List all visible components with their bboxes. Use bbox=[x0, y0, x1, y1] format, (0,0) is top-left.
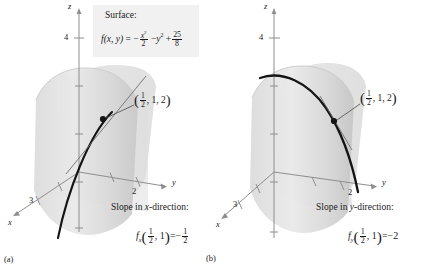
y-tick-label-b: 2 bbox=[348, 188, 352, 197]
value: 2 bbox=[393, 230, 398, 241]
z-axis-label-b: z bbox=[264, 2, 267, 11]
figure-panel-b: z y x 4 2 3 (12, 1, 2) Slope in y-direct… bbox=[212, 0, 423, 272]
figure-number-b: (b) bbox=[206, 254, 216, 263]
y-axis-label-a: y bbox=[172, 178, 176, 187]
point-label-a: (12, 1, 2) bbox=[134, 92, 171, 109]
y-axis-label-b: y bbox=[382, 178, 386, 187]
minus-sign-1: − bbox=[133, 34, 138, 44]
term1-exp: 2 bbox=[144, 30, 146, 35]
term2-exp: 2 bbox=[160, 32, 163, 38]
point-fraction: 12 bbox=[366, 90, 372, 107]
slope-caption-a: Slope in x-direction: bbox=[111, 203, 189, 213]
z-tick-label-b: 4 bbox=[259, 33, 263, 42]
y-tick-label-a: 2 bbox=[132, 187, 136, 196]
x-tick-label-b: 3 bbox=[233, 200, 237, 209]
term3-den: 8 bbox=[172, 39, 182, 48]
paren-close: ) bbox=[165, 229, 170, 245]
plus-sign: + bbox=[166, 34, 171, 44]
paren-close: ) bbox=[377, 229, 382, 245]
arg-rest: , 1 bbox=[155, 230, 165, 241]
x-axis-label-b: x bbox=[216, 220, 220, 229]
arg-fraction: 12 bbox=[360, 228, 366, 246]
term1-den: 2 bbox=[140, 39, 148, 48]
paren-open: ( bbox=[360, 91, 365, 106]
equals-sign: = bbox=[126, 34, 131, 44]
slope-equation-b: fy(12, 1)=−2 bbox=[348, 228, 398, 246]
z-tick-label-a: 4 bbox=[64, 33, 68, 42]
term3-num: 25 bbox=[172, 31, 182, 39]
arg-fraction: 12 bbox=[148, 228, 154, 246]
paren-close: ) bbox=[392, 91, 397, 106]
point-label-b: (12, 1, 2) bbox=[360, 90, 397, 107]
caption-post: -direction: bbox=[149, 202, 189, 212]
minus-sign: − bbox=[176, 230, 182, 241]
point-rest: , 1, 2 bbox=[373, 93, 392, 103]
point-marker-a bbox=[100, 116, 106, 122]
surface-equation: f(x, y) = −x22 −y2 +258 bbox=[101, 30, 183, 49]
term1-fraction: x22 bbox=[140, 30, 148, 49]
y-axis-arrow-b bbox=[371, 184, 377, 190]
arg-rest: , 1 bbox=[367, 230, 377, 241]
z-axis-label-a: z bbox=[68, 2, 71, 11]
slope-caption-b: Slope in y-direction: bbox=[316, 203, 394, 213]
caption-pre: Slope in bbox=[111, 202, 145, 212]
z-axis-arrow-a bbox=[77, 8, 82, 14]
y-axis-arrow-a bbox=[161, 184, 167, 190]
caption-post: -direction: bbox=[354, 202, 394, 212]
paren-open: ( bbox=[354, 229, 359, 245]
point-marker-b bbox=[331, 118, 337, 124]
surface-box-title: Surface: bbox=[105, 11, 137, 21]
value-fraction: 12 bbox=[182, 228, 188, 246]
caption-pre: Slope in bbox=[316, 202, 350, 212]
x-axis-label-a: x bbox=[8, 218, 12, 227]
point-rest: , 1, 2 bbox=[147, 95, 166, 105]
point-fraction: 12 bbox=[140, 92, 146, 109]
paren-open: ( bbox=[134, 93, 139, 108]
paren-close: ) bbox=[166, 93, 171, 108]
figure-number-a: (a) bbox=[4, 255, 13, 264]
term3-fraction: 258 bbox=[172, 31, 182, 48]
slope-equation-a: fx(12, 1)=−12 bbox=[136, 228, 189, 246]
x-tick-label-a: 3 bbox=[29, 196, 33, 205]
z-axis-arrow-b bbox=[272, 8, 277, 14]
paren-open: ( bbox=[142, 229, 147, 245]
fn-args: (x, y) bbox=[104, 34, 124, 44]
